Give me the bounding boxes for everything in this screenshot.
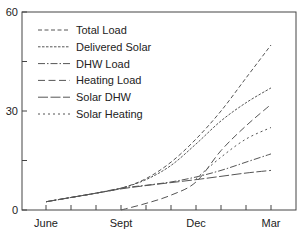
x-axis: JuneSeptDecMar (34, 205, 281, 229)
y-tick-label: 30 (6, 105, 18, 117)
line-chart: 03060 JuneSeptDecMar Total LoadDelivered… (0, 0, 305, 237)
plot-border (22, 12, 296, 210)
x-tick-label: Sept (110, 217, 133, 229)
x-tick-label: Dec (186, 217, 206, 229)
legend-label: Solar Heating (76, 108, 143, 120)
x-tick-label: June (34, 217, 58, 229)
legend-label: Solar DHW (76, 91, 132, 103)
series-line-solar-dhw (46, 170, 271, 201)
series-line-heating-load (121, 104, 271, 210)
legend-label: Delivered Solar (76, 41, 152, 53)
y-tick-label: 0 (12, 204, 18, 216)
y-axis: 03060 (6, 6, 27, 216)
x-tick-label: Mar (262, 217, 281, 229)
plot-frame (22, 12, 296, 210)
series-line-solar-heating (196, 128, 271, 179)
legend-label: Heating Load (76, 74, 141, 86)
series-line-dhw-load (46, 154, 271, 202)
legend: Total LoadDelivered SolarDHW LoadHeating… (38, 24, 152, 120)
series-lines (46, 45, 271, 210)
series-line-delivered-solar (46, 88, 271, 202)
legend-label: Total Load (76, 24, 127, 36)
y-tick-label: 60 (6, 6, 18, 18)
legend-label: DHW Load (76, 58, 130, 70)
